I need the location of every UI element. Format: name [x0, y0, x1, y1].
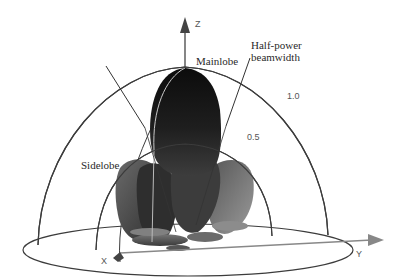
half-power-label-line2: beamwidth	[251, 51, 300, 63]
mainlobe-label: Mainlobe	[196, 55, 238, 67]
half-power-label-line1: Half-power	[251, 39, 302, 51]
radiation-pattern-diagram: Z Y X Mainlobe Half-power beamwidth Side…	[0, 0, 412, 277]
z-axis	[180, 17, 190, 67]
sidelobe-label: Sidelobe	[81, 159, 120, 171]
mainlobe-shape	[150, 68, 221, 176]
y-axis-label: Y	[356, 249, 362, 259]
scale-tick-1-0: 1.0	[287, 91, 300, 101]
x-axis-label: X	[101, 256, 107, 266]
scale-tick-0-5: 0.5	[247, 132, 260, 142]
z-axis-label: Z	[195, 19, 201, 29]
